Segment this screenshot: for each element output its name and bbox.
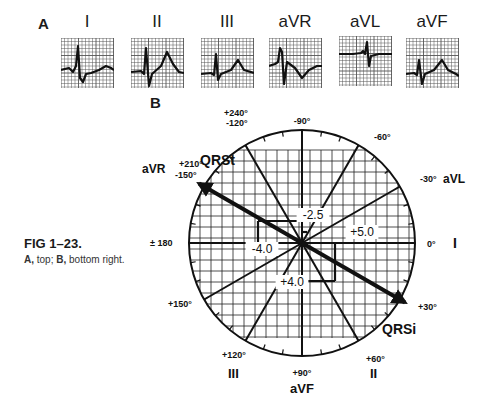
measurement-label-v3: -4.0: [252, 242, 273, 256]
tick-mark: [371, 156, 374, 160]
measurement-label-v2: +5.0: [350, 225, 374, 239]
measurement-label-v1: -2.5: [303, 208, 324, 222]
lead-axis-label-ii: II: [370, 366, 377, 381]
measurement-label-v4: +4.0: [280, 275, 304, 289]
angle-label-m90: -90°: [294, 116, 311, 126]
lead-axis-label-iii: III: [228, 366, 239, 381]
angle-label-pm180: ± 180: [150, 238, 172, 248]
angle-label-p150: +150°: [168, 299, 192, 309]
hexaxial-diagram: -90°-60°-30°0°+30°+60°+90°+120°+150°± 18…: [0, 0, 487, 417]
lead-axis-label-avf: aVF: [290, 381, 314, 396]
tick-mark: [191, 223, 196, 224]
tick-mark: [282, 349, 283, 354]
labels: -90°-60°-30°0°+30°+60°+90°+120°+150°± 18…: [142, 108, 465, 396]
angle-label-p240: +240°: [224, 108, 248, 118]
tick-mark: [321, 349, 322, 354]
tick-mark: [339, 344, 341, 349]
angle-label-p60: +60°: [366, 354, 385, 364]
tick-mark: [408, 262, 413, 263]
lead-axis-label-avl: aVL: [443, 172, 465, 186]
angle-label-p90: +90°: [293, 368, 312, 378]
tick-mark: [403, 280, 408, 282]
tick-mark: [263, 344, 265, 349]
angle-label-m30: -30°: [420, 174, 437, 184]
angle-label-p0: 0°: [427, 239, 436, 249]
lead-axis-label-avr: aVR: [142, 162, 166, 176]
vector-qrst: [199, 184, 302, 244]
angle-label-m150: -150°: [175, 170, 197, 180]
tick-mark: [263, 137, 265, 142]
angle-label-p30: +30°: [418, 302, 437, 312]
vector-label-qrst: QRSt: [200, 152, 235, 168]
angle-label-m60: -60°: [374, 132, 391, 142]
lead-axis-label-i: I: [453, 235, 457, 251]
vector-label-qrsi: QRSi: [382, 321, 416, 337]
tick-mark: [408, 223, 413, 224]
angle-label-p120: +120°: [222, 350, 246, 360]
tick-mark: [339, 137, 341, 142]
tick-mark: [321, 132, 322, 137]
tick-mark: [191, 262, 196, 263]
vector-qrsi: [302, 243, 405, 303]
tick-mark: [282, 132, 283, 137]
angle-label-m120: -120°: [226, 118, 248, 128]
